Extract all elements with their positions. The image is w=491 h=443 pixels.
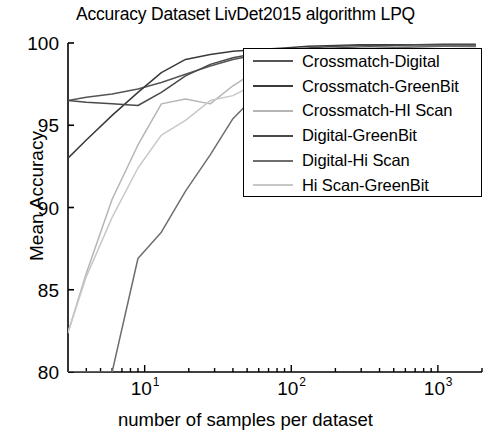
- legend-item-label: Crossmatch-GreenBit: [302, 77, 459, 96]
- svg-text:3: 3: [446, 375, 453, 389]
- legend-item-label: Digital-GreenBit: [302, 126, 417, 145]
- y-axis-label: Mean Accuracy: [26, 86, 48, 306]
- legend-line-swatch: [253, 184, 293, 186]
- legend-line-swatch: [253, 135, 293, 137]
- legend-line-swatch: [253, 110, 293, 112]
- legend-line-swatch: [253, 85, 293, 87]
- legend-item-label: Crossmatch-Digital: [302, 52, 440, 71]
- chart-page: Accuracy Dataset LivDet2015 algorithm LP…: [0, 0, 491, 443]
- legend-line-swatch: [253, 160, 293, 162]
- legend-line-swatch: [253, 60, 293, 62]
- legend-item[interactable]: Crossmatch-Digital: [244, 49, 481, 74]
- svg-text:2: 2: [299, 375, 306, 389]
- x-axis-label: number of samples per dataset: [0, 409, 491, 431]
- svg-text:80: 80: [38, 362, 59, 383]
- legend-item[interactable]: Digital-GreenBit: [244, 123, 481, 148]
- legend-item-label: Crossmatch-HI Scan: [302, 101, 452, 120]
- legend-item-label: Digital-Hi Scan: [302, 151, 410, 170]
- svg-text:100: 100: [27, 33, 59, 54]
- svg-text:10: 10: [424, 378, 445, 399]
- x-ticks: 101102103: [86, 365, 482, 399]
- legend-item[interactable]: Digital-Hi Scan: [244, 148, 481, 173]
- legend-item[interactable]: Crossmatch-GreenBit: [244, 74, 481, 99]
- legend-item[interactable]: Crossmatch-HI Scan: [244, 99, 481, 124]
- legend: Crossmatch-DigitalCrossmatch-GreenBitCro…: [243, 48, 482, 197]
- svg-text:1: 1: [153, 375, 160, 389]
- legend-item-label: Hi Scan-GreenBit: [302, 176, 429, 195]
- svg-text:10: 10: [277, 378, 298, 399]
- legend-item[interactable]: Hi Scan-GreenBit: [244, 173, 481, 198]
- svg-text:10: 10: [131, 378, 152, 399]
